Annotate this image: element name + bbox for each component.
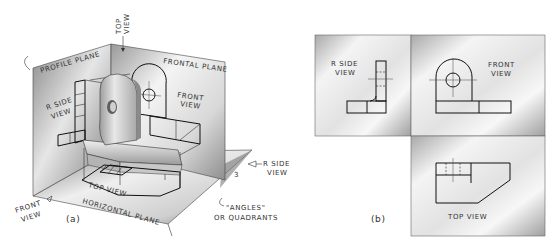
b-top-view-label: TOP VIEW: [447, 213, 487, 221]
svg-text:R SIDE: R SIDE: [263, 160, 290, 168]
hinge-arrow-icon: [168, 224, 172, 236]
b-r-side-label-2: VIEW: [335, 69, 356, 77]
b-r-side-label-1: R SIDE: [331, 60, 358, 68]
b-front-label-1: FRONT: [488, 61, 515, 69]
svg-text:VIEW: VIEW: [267, 169, 288, 177]
svg-text:VIEW: VIEW: [123, 13, 131, 34]
rotation-arrow-icon: [24, 56, 30, 70]
orthographic-projection-figure: PROFILE PLANE FRONTAL PLANE HORIZONTAL P…: [0, 0, 553, 251]
svg-text:OR QUADRANTS: OR QUADRANTS: [214, 214, 278, 222]
figure-b-caption: (b): [371, 214, 386, 224]
r-side-panel: [315, 35, 411, 136]
angles-note: "ANGLES" OR QUADRANTS: [214, 198, 278, 222]
figure-b-orthographic-views: R SIDE VIEW FRONT VIEW TOP VIEW (b): [315, 35, 545, 236]
top-panel: [411, 136, 545, 236]
figure-a-pictorial: PROFILE PLANE FRONTAL PLANE HORIZONTAL P…: [14, 13, 290, 236]
front-panel: [411, 35, 545, 136]
r-side-arrow: R SIDE VIEW: [248, 160, 290, 177]
front-view-arrow: FRONT VIEW: [14, 196, 52, 224]
b-front-label-2: VIEW: [491, 70, 512, 78]
quadrant-number: 3: [234, 171, 239, 179]
front-view-label: FRONT VIEW: [177, 91, 205, 111]
figure-a-caption: (a): [66, 214, 80, 224]
svg-text:TOP: TOP: [115, 18, 123, 35]
svg-text:"ANGLES": "ANGLES": [226, 204, 265, 212]
